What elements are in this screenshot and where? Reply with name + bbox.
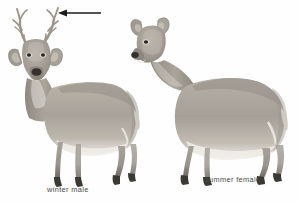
deer-illustration-plate: winter male summer female	[0, 0, 299, 203]
male-nose	[32, 68, 42, 76]
deer-artwork	[0, 0, 299, 203]
summer-female-deer	[131, 18, 288, 186]
female-hoof-4	[273, 173, 282, 182]
male-hoof-3	[113, 175, 120, 185]
female-nose	[131, 52, 139, 58]
female-hoof-1	[181, 175, 189, 185]
male-right-eye	[41, 53, 45, 56]
arrow-head-icon	[58, 10, 67, 17]
female-eye	[144, 40, 148, 44]
male-left-eye	[27, 53, 31, 56]
antler-pointer-arrow	[58, 10, 101, 17]
caption-summer-female: summer female	[205, 175, 260, 184]
male-hoof-4	[128, 173, 136, 182]
caption-winter-male: winter male	[47, 185, 89, 194]
winter-male-deer	[8, 8, 139, 187]
